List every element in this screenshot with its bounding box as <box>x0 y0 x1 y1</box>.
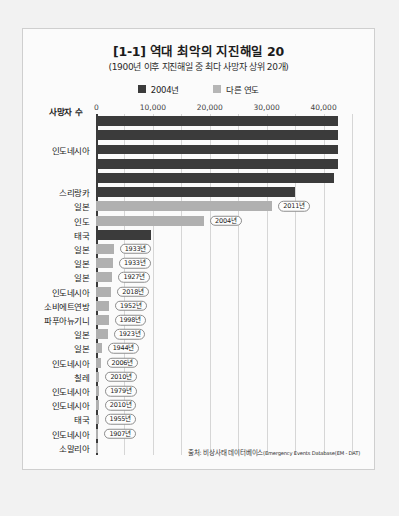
bar-row: 1907년 <box>96 429 352 439</box>
year-callout: 1923년 <box>114 329 146 340</box>
y-axis-label: 파푸아뉴기니 <box>44 314 89 326</box>
chart-subtitle: (1900년 이후 지진해일 중 최다 사망자 상위 20개) <box>23 60 374 73</box>
bar <box>96 301 109 311</box>
chart-card: [1-1] 역대 최악의 지진해일 20 (1900년 이후 지진해일 중 최다… <box>22 28 375 470</box>
year-callout: 1955년 <box>105 414 137 425</box>
year-callout: 1979년 <box>105 386 137 397</box>
year-callout: 2011년 <box>278 201 310 212</box>
bar-row: 1933년 <box>96 258 352 268</box>
year-callout: 1952년 <box>115 301 147 312</box>
year-callout: 1907년 <box>104 428 136 439</box>
y-axis-labels: 인도네시아스리랑카일본인도태국일본일본일본인도네시아소비에트연방파푸아뉴기니일본… <box>23 114 93 455</box>
plot-area: 010,00020,00030,00040,000 2011년2004년1933… <box>96 103 352 455</box>
y-axis-label: 태국 <box>74 413 89 425</box>
legend-label: 다른 연도 <box>226 83 259 95</box>
bar <box>96 329 108 339</box>
legend-item-2004: 2004년 <box>138 83 179 95</box>
legend-item-other: 다른 연도 <box>213 83 259 95</box>
legend-swatch-icon <box>213 85 221 93</box>
bar <box>96 159 338 169</box>
y-axis-label: 일본 <box>74 257 89 269</box>
source-note: 출처: 비상사태 데이터베이스(Emergency Events Databas… <box>188 447 360 457</box>
year-callout: 2018년 <box>117 286 149 297</box>
bar <box>96 343 102 353</box>
bar-row: 1979년 <box>96 386 352 396</box>
bar <box>96 187 295 197</box>
bar-row: 2018년 <box>96 287 352 297</box>
bar <box>96 230 151 240</box>
chart-legend: 2004년 다른 연도 <box>23 83 374 95</box>
bar-row <box>96 145 352 155</box>
x-tick-label: 10,000 <box>140 103 166 112</box>
x-tick-label: 30,000 <box>254 103 280 112</box>
y-axis-label: 인도네시아 <box>52 286 90 298</box>
year-callout: 1927년 <box>118 272 150 283</box>
bar-row: 1927년 <box>96 272 352 282</box>
y-axis-label: 일본 <box>74 200 89 212</box>
bar-row: 2004년 <box>96 216 352 226</box>
bar-row: 1944년 <box>96 343 352 353</box>
y-axis-label: 스리랑카 <box>59 186 89 198</box>
bar <box>96 130 338 140</box>
legend-swatch-icon <box>138 85 146 93</box>
bar <box>96 145 338 155</box>
bar-row: 1952년 <box>96 301 352 311</box>
bar <box>96 272 112 282</box>
x-tick-label: 40,000 <box>310 103 336 112</box>
year-callout: 1944년 <box>108 343 140 354</box>
year-callout: 2004년 <box>210 215 242 226</box>
bar-rows: 2011년2004년1933년1933년1927년2018년1952년1998년… <box>96 114 352 455</box>
bar-row: 2011년 <box>96 201 352 211</box>
bar-row: 2010년 <box>96 372 352 382</box>
year-callout: 1933년 <box>119 258 151 269</box>
bar <box>96 116 338 126</box>
y-axis-label: 일본 <box>74 342 89 354</box>
bar-row <box>96 230 352 240</box>
x-tick-label: 0 <box>94 103 99 112</box>
bar <box>96 415 99 425</box>
year-callout: 2010년 <box>105 372 137 383</box>
source-text-en: (Emergency Events Database(EM - DAT) <box>263 450 360 456</box>
bar-row: 1933년 <box>96 244 352 254</box>
bar-row <box>96 159 352 169</box>
bar <box>96 201 272 211</box>
y-axis-label: 인도네시아 <box>52 357 90 369</box>
screenshot-page: [1-1] 역대 최악의 지진해일 20 (1900년 이후 지진해일 중 최다… <box>0 0 399 516</box>
legend-label: 2004년 <box>151 83 179 95</box>
bar-row <box>96 130 352 140</box>
bar-row <box>96 116 352 126</box>
bar <box>96 429 98 439</box>
bar <box>96 358 101 368</box>
y-axis-label: 칠레 <box>74 371 89 383</box>
bar-row <box>96 187 352 197</box>
y-axis-label: 인도 <box>74 215 89 227</box>
bar <box>96 315 109 325</box>
y-axis-label: 태국 <box>74 229 89 241</box>
year-callout: 1998년 <box>115 315 147 326</box>
bar-row <box>96 173 352 183</box>
y-axis-label: 인도네시아 <box>52 399 90 411</box>
year-callout: 2010년 <box>105 400 137 411</box>
year-callout: 2006년 <box>107 357 139 368</box>
x-tick-label: 20,000 <box>197 103 223 112</box>
gridline <box>352 114 353 455</box>
y-axis-label: 인도네시아 <box>52 144 90 156</box>
bar-row: 1955년 <box>96 415 352 425</box>
y-axis-label: 일본 <box>74 243 89 255</box>
y-axis-label: 인도네시아 <box>52 385 90 397</box>
source-text: 출처: 비상사태 데이터베이스 <box>188 449 263 457</box>
bar <box>96 244 114 254</box>
y-axis-label: 인도네시아 <box>52 428 90 440</box>
bar <box>96 216 204 226</box>
chart-title: [1-1] 역대 최악의 지진해일 20 <box>23 41 374 60</box>
bar <box>96 372 99 382</box>
x-axis-ticks: 010,00020,00030,00040,000 <box>96 103 352 114</box>
bar <box>96 386 99 396</box>
year-callout: 1933년 <box>120 244 152 255</box>
bar <box>96 400 99 410</box>
bar-row: 1923년 <box>96 329 352 339</box>
y-axis-label: 일본 <box>74 271 89 283</box>
bar-row: 1998년 <box>96 315 352 325</box>
y-axis-label: 소말리아 <box>59 442 89 454</box>
bar-row: 2010년 <box>96 400 352 410</box>
